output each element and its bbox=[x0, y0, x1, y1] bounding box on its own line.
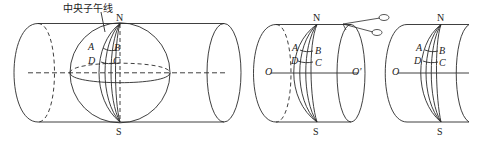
axis-end-label: O' bbox=[352, 66, 362, 77]
axis-origin-label: O bbox=[392, 66, 399, 77]
point-d-label: D bbox=[413, 55, 422, 66]
axis-origin-label: O bbox=[265, 66, 272, 77]
south-pole-label: S bbox=[313, 126, 319, 137]
point-b-label: B bbox=[315, 45, 321, 56]
point-c-label: C bbox=[315, 57, 322, 68]
diagram-stage: 中央子午线 N S A B C D N S A B C D O O' N S A… bbox=[0, 0, 479, 143]
north-pole-label: N bbox=[313, 12, 320, 23]
point-d-label: D bbox=[87, 55, 96, 66]
point-c-label: C bbox=[113, 55, 120, 66]
point-b-label: B bbox=[114, 42, 120, 53]
point-a-label: A bbox=[415, 42, 423, 53]
south-pole-label: S bbox=[116, 126, 122, 137]
projection-diagram: 中央子午线 N S A B C D N S A B C D O O' N S A… bbox=[0, 0, 479, 143]
point-a-label: A bbox=[87, 41, 95, 52]
panel-1-sphere-in-cylinder bbox=[14, 12, 241, 123]
point-a-label: A bbox=[291, 42, 299, 53]
central-meridian-label: 中央子午线 bbox=[63, 2, 113, 14]
point-b-label: B bbox=[439, 45, 445, 56]
south-pole-label: S bbox=[437, 126, 443, 137]
north-pole-label: N bbox=[116, 12, 123, 23]
point-c-label: C bbox=[439, 57, 446, 68]
point-d-label: D bbox=[290, 55, 299, 66]
north-pole-label: N bbox=[437, 12, 444, 23]
